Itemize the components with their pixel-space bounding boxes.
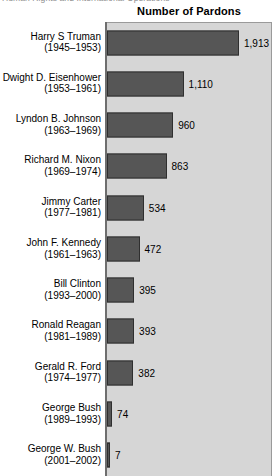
president-name: John F. Kennedy [1, 237, 101, 249]
bar [107, 113, 173, 138]
president-name: George Bush [1, 402, 101, 414]
president-name: Gerald R. Ford [1, 361, 101, 373]
bar-value-label: 393 [139, 326, 156, 337]
president-name: Dwight D. Eisenhower [1, 72, 101, 84]
bar [107, 278, 134, 303]
bar-value-label: 382 [138, 367, 155, 378]
bar [107, 402, 112, 427]
bar-row-label: Harry S Truman(1945–1953) [1, 31, 101, 54]
bar-value-label: 1,913 [244, 37, 269, 48]
bar-row-label: George Bush(1989–1993) [1, 402, 101, 425]
bar [107, 30, 239, 55]
president-name: Richard M. Nixon [1, 155, 101, 167]
bar-row-label: Richard M. Nixon(1969–1974) [1, 155, 101, 178]
president-term-years: (1963–1969) [1, 125, 101, 137]
chart-title: Number of Pardons [105, 5, 273, 17]
president-term-years: (1993–2000) [1, 290, 101, 302]
bar-value-label: 960 [178, 120, 195, 131]
bar-row: Harry S Truman(1945–1953)1,913 [0, 22, 275, 63]
president-term-years: (2001–2002) [1, 455, 101, 467]
bar-value-label: 863 [172, 161, 189, 172]
pardons-bar-chart-figure: Human Rights and International Operation… [0, 0, 275, 476]
clipped-running-header: Human Rights and International Operation… [2, 0, 273, 3]
president-term-years: (1961–1963) [1, 249, 101, 261]
president-name: Jimmy Carter [1, 196, 101, 208]
bar-row: Bill Clinton(1993–2000)395 [0, 270, 275, 311]
bar-row-label: Ronald Reagan(1981–1989) [1, 320, 101, 343]
bar [107, 195, 144, 220]
president-term-years: (1989–1993) [1, 414, 101, 426]
bar-value-label: 395 [139, 285, 156, 296]
bar-value-label: 1,110 [189, 78, 213, 89]
bar [107, 319, 134, 344]
bar [107, 154, 167, 179]
bar-row: Ronald Reagan(1981–1989)393 [0, 311, 275, 352]
president-name: George W. Bush [1, 444, 101, 456]
president-name: Ronald Reagan [1, 320, 101, 332]
bar-row-label: Gerald R. Ford(1974–1977) [1, 361, 101, 384]
president-name: Lyndon B. Johnson [1, 114, 101, 126]
president-name: Bill Clinton [1, 279, 101, 291]
bar-row: Lyndon B. Johnson(1963–1969)960 [0, 105, 275, 146]
bar-row: John F. Kennedy(1961–1963)472 [0, 228, 275, 269]
president-term-years: (1974–1977) [1, 373, 101, 385]
bar [107, 360, 133, 385]
bar-row-label: Dwight D. Eisenhower(1953–1961) [1, 72, 101, 95]
bar-row: George W. Bush(2001–2002)7 [0, 435, 275, 476]
bar-value-label: 7 [115, 450, 121, 461]
bar-row-label: Lyndon B. Johnson(1963–1969) [1, 114, 101, 137]
bar-value-label: 472 [145, 243, 162, 254]
bar-row-label: Jimmy Carter(1977–1981) [1, 196, 101, 219]
bar-row: Dwight D. Eisenhower(1953–1961)1,110 [0, 63, 275, 104]
bar-row-label: George W. Bush(2001–2002) [1, 444, 101, 467]
bar-row: Richard M. Nixon(1969–1974)863 [0, 146, 275, 187]
bar-value-label: 74 [117, 409, 128, 420]
president-term-years: (1953–1961) [1, 84, 101, 96]
bar [107, 71, 184, 96]
bar-row-label: John F. Kennedy(1961–1963) [1, 237, 101, 260]
bar [107, 443, 110, 468]
bar-value-label: 534 [149, 202, 166, 213]
bar-row: Gerald R. Ford(1974–1977)382 [0, 352, 275, 393]
bar [107, 236, 140, 261]
president-term-years: (1981–1989) [1, 331, 101, 343]
bar-row-label: Bill Clinton(1993–2000) [1, 279, 101, 302]
president-term-years: (1977–1981) [1, 208, 101, 220]
president-term-years: (1969–1974) [1, 166, 101, 178]
bar-row: George Bush(1989–1993)74 [0, 393, 275, 434]
bar-rows-container: Harry S Truman(1945–1953)1,913Dwight D. … [0, 22, 275, 476]
bar-row: Jimmy Carter(1977–1981)534 [0, 187, 275, 228]
president-name: Harry S Truman [1, 31, 101, 43]
president-term-years: (1945–1953) [1, 43, 101, 55]
